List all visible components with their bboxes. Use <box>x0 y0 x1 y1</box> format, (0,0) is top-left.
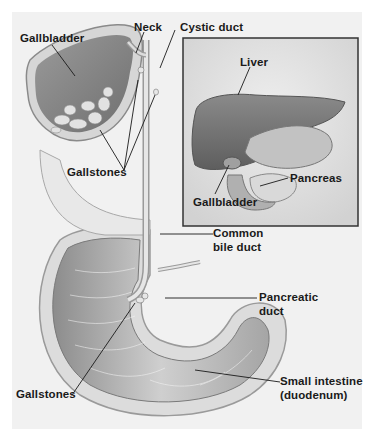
label-common-bile-duct-line1: Common <box>213 227 263 240</box>
inset-label-liver: Liver <box>240 56 268 69</box>
label-cystic-duct: Cystic duct <box>180 21 243 34</box>
upper-tube <box>40 150 150 235</box>
inset-label-pancreas: Pancreas <box>290 172 342 185</box>
label-gallstones-upper: Gallstones <box>67 166 127 179</box>
label-small-intestine-line2: (duodenum) <box>280 389 347 402</box>
label-common-bile-duct-line2: bile duct <box>213 241 261 254</box>
label-pancreatic-duct-line1: Pancreatic <box>259 291 318 304</box>
inset-label-gallbladder: Gallbladder <box>193 196 257 209</box>
label-neck: Neck <box>134 21 162 34</box>
duodenum <box>40 227 287 416</box>
label-small-intestine-line1: Small intestine <box>280 375 363 388</box>
anatomy-illustration <box>0 0 373 440</box>
label-gallstones-lower: Gallstones <box>16 388 76 401</box>
label-gallbladder: Gallbladder <box>20 32 84 45</box>
inset-gallbladder <box>223 157 241 169</box>
label-pancreatic-duct-line2: duct <box>259 305 284 318</box>
